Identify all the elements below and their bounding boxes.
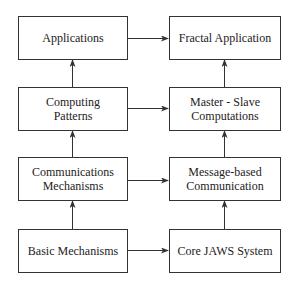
box-basic-mechanisms: Basic Mechanisms <box>18 229 128 273</box>
box-label: Core JAWS System <box>177 244 272 258</box>
box-master-slave-computations: Master - Slave Computations <box>169 87 281 131</box>
box-label: Computing Patterns <box>46 95 100 123</box>
box-message-based-communication: Message-based Communication <box>169 157 281 201</box>
box-label: Communications Mechanisms <box>32 165 114 193</box>
box-core-jaws-system: Core JAWS System <box>169 229 281 273</box>
box-fractal-application: Fractal Application <box>169 16 281 60</box>
box-label: Master - Slave Computations <box>190 95 260 123</box>
box-label: Basic Mechanisms <box>28 244 118 258</box>
box-communications-mechanisms: Communications Mechanisms <box>18 157 128 201</box>
box-applications: Applications <box>18 16 128 60</box>
box-label: Applications <box>42 31 103 45</box>
box-computing-patterns: Computing Patterns <box>18 87 128 131</box>
box-label: Message-based Communication <box>186 165 263 193</box>
box-label: Fractal Application <box>179 31 271 45</box>
